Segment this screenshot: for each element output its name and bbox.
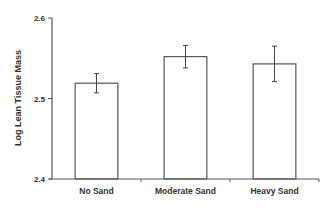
y-ticks-group: 2.42.52.6 [34, 14, 52, 184]
y-axis-title: Log Lean Tissue Mass [13, 50, 23, 146]
bars-group [75, 57, 296, 179]
bar-chart: 2.42.52.6 No SandModerate SandHeavy Sand… [0, 0, 332, 209]
y-tick-label: 2.6 [34, 14, 46, 23]
y-tick-label: 2.4 [34, 175, 46, 184]
x-ticks-group: No SandModerate SandHeavy Sand [79, 179, 319, 196]
bar-moderate-sand [164, 57, 207, 179]
bar-no-sand [75, 83, 118, 179]
x-tick-label: Heavy Sand [250, 186, 298, 196]
x-tick-label: Moderate Sand [155, 186, 216, 196]
y-tick-label: 2.5 [34, 95, 46, 104]
x-tick-label: No Sand [79, 186, 113, 196]
